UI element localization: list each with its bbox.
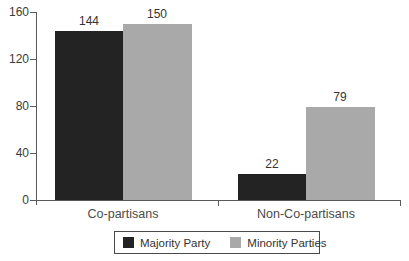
- category-label: Non-Co-partisans: [216, 207, 396, 221]
- legend-item-majority-party: Majority Party: [123, 237, 210, 249]
- bar-value-label: 79: [310, 90, 370, 104]
- y-axis-tick: [30, 153, 36, 154]
- category-label: Co-partisans: [33, 207, 213, 221]
- minority-parties-swatch: [230, 237, 241, 248]
- x-axis-tick: [218, 201, 219, 206]
- bar-minority-parties-0: [123, 24, 192, 200]
- y-tick-label: 0: [0, 193, 29, 207]
- y-axis-tick: [30, 200, 36, 201]
- y-tick-label: 120: [0, 52, 29, 66]
- majority-party-swatch: [123, 237, 134, 248]
- bar-majority-party-0: [55, 31, 124, 200]
- y-axis-tick: [30, 106, 36, 107]
- legend-item-minority-parties: Minority Parties: [230, 237, 326, 249]
- plot-area: 04080120160144150Co-partisans2279Non-Co-…: [0, 0, 409, 261]
- y-tick-label: 80: [0, 99, 29, 113]
- legend-label-majority-party: Majority Party: [140, 237, 210, 249]
- legend-label-minority-parties: Minority Parties: [247, 237, 326, 249]
- x-axis-tick: [400, 201, 401, 206]
- y-tick-label: 40: [0, 146, 29, 160]
- bar-chart: 04080120160144150Co-partisans2279Non-Co-…: [0, 0, 409, 261]
- y-axis: [36, 12, 37, 205]
- y-tick-label: 160: [0, 5, 29, 19]
- y-axis-tick: [30, 12, 36, 13]
- y-axis-tick: [30, 59, 36, 60]
- bar-value-label: 144: [59, 14, 119, 28]
- legend: Majority Party Minority Parties: [114, 231, 320, 254]
- bar-value-label: 150: [127, 7, 187, 21]
- bar-value-label: 22: [242, 157, 302, 171]
- bar-majority-party-1: [238, 174, 307, 200]
- bar-minority-parties-1: [306, 107, 375, 200]
